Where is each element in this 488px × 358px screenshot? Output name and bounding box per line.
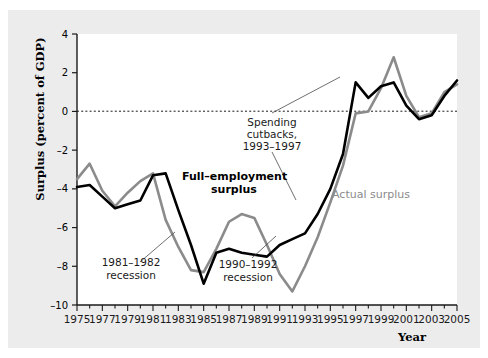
annotation-recession-1981-1982: 1981–1982 recession — [102, 256, 161, 281]
annotation-recession-1990-1992: 1990–1992 recession — [219, 258, 278, 283]
y-tick-label: –6 — [57, 222, 68, 233]
x-tick-label: 1991 — [266, 313, 293, 325]
annotation-actual-surplus: Actual surplus — [332, 188, 410, 201]
y-tick-label: –4 — [57, 183, 68, 194]
svg-text:1993–1997: 1993–1997 — [243, 140, 302, 152]
svg-text:Spending: Spending — [247, 116, 296, 128]
x-tick-label: 1975 — [64, 313, 91, 325]
svg-text:cutbacks,: cutbacks, — [247, 128, 297, 140]
annotation-full-employment-surplus: Full–employment surplus — [182, 170, 287, 196]
x-tick-label: 1999 — [368, 313, 395, 325]
svg-text:recession: recession — [106, 269, 156, 281]
x-tick-label: 2001 — [393, 313, 420, 325]
svg-text:Actual surplus: Actual surplus — [332, 188, 410, 201]
x-tick-label: 1995 — [317, 313, 344, 325]
x-tick-label: 1981 — [140, 313, 167, 325]
x-tick-label: 2005 — [444, 313, 471, 325]
x-tick-label: 1977 — [89, 313, 116, 325]
y-tick-label: 4 — [62, 29, 68, 40]
x-tick-label: 1979 — [114, 313, 141, 325]
annotation-spending-cutbacks: Spending cutbacks, 1993–1997 — [243, 116, 302, 152]
x-axis-ticks: 1975197719791981198319851987198919911993… — [64, 305, 471, 325]
svg-text:1990–1992: 1990–1992 — [219, 258, 278, 270]
x-tick-label: 1997 — [342, 313, 369, 325]
svg-text:surplus: surplus — [211, 183, 257, 196]
x-tick-label: 1989 — [241, 313, 268, 325]
svg-text:1981–1982: 1981–1982 — [102, 256, 161, 268]
y-tick-label: –8 — [57, 261, 68, 272]
y-axis-ticks: 420–2–4–6–8–10 — [50, 29, 77, 311]
x-tick-label: 1983 — [165, 313, 192, 325]
svg-text:recession: recession — [223, 271, 273, 283]
svg-text:Full–employment: Full–employment — [182, 170, 287, 183]
x-tick-label: 2003 — [418, 313, 445, 325]
y-tick-label: 0 — [62, 106, 68, 117]
line-chart: 420–2–4–6–8–10 1975197719791981198319851… — [0, 0, 488, 358]
x-tick-label: 1985 — [190, 313, 217, 325]
y-tick-label: –10 — [50, 300, 68, 311]
leader-line-spending-cutbacks-up — [272, 77, 340, 113]
x-tick-label: 1987 — [216, 313, 243, 325]
y-tick-label: –2 — [57, 145, 68, 156]
y-tick-label: 2 — [62, 67, 68, 78]
figure-container: Surplus (percent of GDP) Year 420–2–4–6–… — [0, 0, 488, 358]
x-tick-label: 1993 — [292, 313, 319, 325]
